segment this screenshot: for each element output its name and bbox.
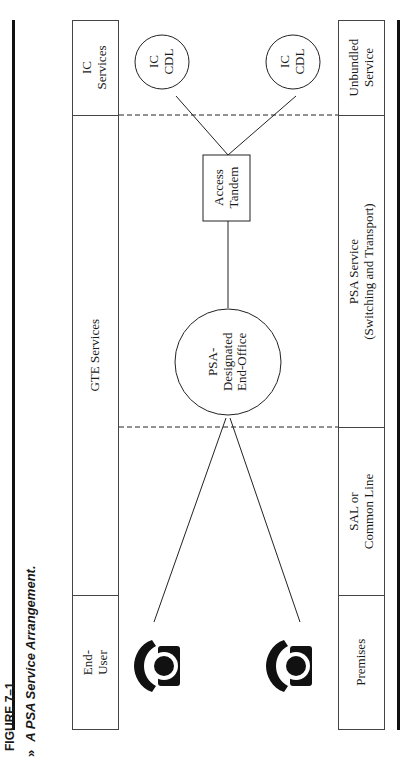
psa-end-office-label: PSA-DesignatedEnd-Office [175,309,281,415]
link-endoffice-phone1 [154,418,226,622]
ic-cdl-2-label: ICCDL [266,35,320,89]
telephone-icon [134,640,180,692]
link-cdl2-tandem [228,96,296,155]
telephone-icon [266,640,312,692]
access-tandem-label: AccessTandem [203,155,250,221]
link-cdl1-tandem [176,96,228,155]
ic-cdl-1-label: ICCDL [135,35,189,89]
link-endoffice-phone2 [230,418,300,622]
